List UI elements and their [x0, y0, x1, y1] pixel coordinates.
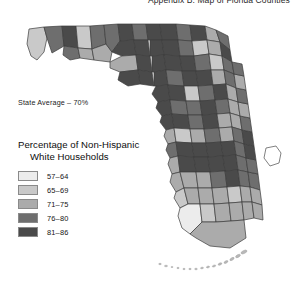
county-polygon	[198, 85, 215, 101]
legend-title-line2: White Households	[18, 151, 188, 163]
legend-label: 65–69	[47, 186, 69, 195]
county-polygon	[211, 70, 226, 85]
county-polygon	[110, 55, 138, 72]
county-polygon	[238, 102, 250, 118]
county-polygon	[204, 128, 221, 143]
county-polygon	[160, 114, 174, 130]
county-polygon	[166, 70, 184, 86]
lake-okeechobee	[264, 146, 281, 166]
county-polygon	[118, 24, 134, 41]
county-polygon	[156, 100, 172, 116]
county-polygon	[234, 74, 246, 90]
county-polygon	[194, 54, 211, 71]
county-polygon	[162, 40, 180, 56]
county-polygon	[180, 56, 196, 71]
county-polygon	[217, 113, 232, 128]
legend-row: 57–64	[18, 170, 188, 182]
county-polygon	[196, 172, 212, 188]
legend-swatch	[18, 199, 38, 209]
county-polygon	[134, 40, 150, 56]
county-polygon	[202, 114, 219, 129]
legend-swatch	[18, 213, 38, 223]
county-polygon	[78, 48, 94, 60]
county-polygon	[219, 127, 234, 142]
legend-label: 76–80	[47, 214, 69, 223]
county-polygon	[210, 171, 227, 188]
florida-keys	[159, 249, 248, 270]
county-polygon	[232, 62, 244, 76]
county-polygon	[200, 204, 216, 222]
county-polygon	[198, 188, 214, 204]
county-polygon	[27, 27, 47, 60]
county-polygon	[246, 158, 258, 174]
county-polygon	[192, 40, 209, 56]
county-polygon	[223, 155, 238, 171]
county-polygon	[76, 26, 92, 49]
map-legend: Percentage of Non-Hispanic White Househo…	[18, 139, 188, 240]
legend-label: 81–86	[47, 228, 69, 237]
county-polygon	[168, 85, 186, 101]
legend-swatch	[18, 185, 38, 195]
county-polygon	[182, 71, 198, 86]
county-polygon	[118, 70, 140, 86]
legend-row: 71–75	[18, 198, 188, 210]
legend-row: 81–86	[18, 226, 188, 238]
county-polygon	[225, 170, 240, 187]
county-polygon	[132, 24, 148, 40]
county-polygon	[242, 130, 254, 146]
county-polygon	[164, 55, 182, 71]
county-polygon	[196, 70, 213, 86]
figure-canvas: Appendix B. Map of Florida Counties	[0, 0, 293, 286]
county-polygon	[188, 115, 204, 129]
county-polygon	[192, 143, 208, 157]
county-polygon	[172, 114, 190, 129]
legend-row: 76–80	[18, 212, 188, 224]
legend-title-line1: Percentage of Non-Hispanic	[18, 139, 139, 150]
legend-row: 65–69	[18, 184, 188, 196]
county-polygon	[214, 203, 231, 222]
county-polygon	[221, 141, 236, 156]
county-polygon	[190, 129, 206, 143]
county-polygon	[244, 144, 256, 160]
county-polygon	[146, 24, 162, 40]
county-polygon	[190, 25, 207, 41]
county-polygon	[150, 40, 164, 56]
legend-title: Percentage of Non-Hispanic White Househo…	[18, 139, 188, 163]
legend-swatch	[18, 227, 38, 237]
county-polygon	[252, 202, 263, 220]
county-polygon	[215, 99, 230, 114]
county-polygon	[178, 40, 194, 56]
county-polygon	[138, 70, 154, 86]
county-polygon	[229, 202, 244, 221]
county-polygon	[186, 101, 202, 115]
county-polygon	[206, 142, 223, 157]
legend-swatch	[18, 171, 38, 181]
county-polygon	[213, 84, 228, 100]
legend-label: 71–75	[47, 200, 69, 209]
county-polygon	[176, 24, 192, 41]
county-polygon	[62, 26, 78, 48]
legend-label: 57–64	[47, 172, 69, 181]
county-polygon	[208, 156, 225, 172]
county-polygon	[152, 85, 170, 102]
county-polygon	[184, 86, 200, 101]
county-polygon	[212, 187, 229, 204]
county-polygon	[170, 100, 188, 115]
legend-items: 57–64 65–69 71–75 76–80 81–86	[18, 170, 188, 238]
county-polygon	[63, 46, 80, 60]
county-polygon	[136, 55, 152, 72]
state-average-annotation: State Average – 70%	[18, 98, 88, 107]
county-polygon	[236, 88, 248, 104]
county-polygon	[154, 70, 168, 86]
county-polygon	[200, 100, 217, 115]
county-polygon	[160, 24, 178, 40]
county-polygon	[240, 116, 252, 132]
county-polygon	[227, 186, 242, 203]
county-polygon	[194, 157, 210, 172]
county-polygon	[152, 55, 166, 72]
